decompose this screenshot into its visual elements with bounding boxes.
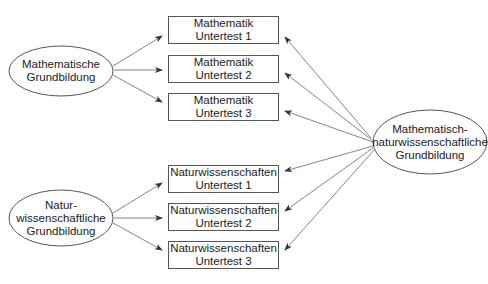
arrow-general-math-1 (285, 37, 371, 138)
factor-math-line-1: Mathematische (22, 58, 100, 71)
factor-science-label: Natur- wissenschaftliche Grundbildung (9, 198, 113, 238)
indicator-science-3: Naturwissenschaften Untertest 3 (168, 241, 279, 269)
indicator-subtest: Untertest 3 (169, 255, 278, 268)
indicator-title: Naturwissenschaften (169, 204, 278, 217)
indicator-science-1: Naturwissenschaften Untertest 1 (168, 165, 279, 193)
factor-science-line-3: Grundbildung (26, 225, 95, 238)
factor-science-line-2: wissenschaftliche (16, 212, 105, 225)
indicator-subtest: Untertest 1 (169, 179, 278, 192)
arrow-general-math-3 (285, 111, 373, 142)
arrow-general-science-1 (285, 146, 373, 171)
factor-general-line-3: Grundbildung (395, 149, 464, 162)
indicator-title: Naturwissenschaften (169, 242, 278, 255)
indicator-math-2: Mathematik Untertest 2 (168, 55, 279, 83)
arrow-science-3 (113, 223, 162, 250)
factor-general-line-2: naturwissenschaftliche (372, 136, 488, 149)
arrow-general-math-2 (285, 73, 372, 140)
indicator-title: Mathematik (169, 56, 278, 69)
arrow-math-3 (113, 75, 162, 102)
indicator-title: Mathematik (169, 17, 278, 30)
indicator-subtest: Untertest 1 (169, 30, 278, 43)
indicator-math-3: Mathematik Untertest 3 (168, 93, 279, 121)
factor-math-label: Mathematische Grundbildung (9, 58, 113, 84)
arrow-general-science-3 (285, 150, 374, 250)
indicator-title: Naturwissenschaften (169, 166, 278, 179)
indicator-subtest: Untertest 2 (169, 69, 278, 82)
arrow-general-science-2 (285, 148, 373, 211)
indicator-subtest: Untertest 3 (169, 107, 278, 120)
indicator-science-2: Naturwissenschaften Untertest 2 (168, 203, 279, 231)
factor-general-line-1: Mathematisch- (392, 123, 467, 136)
arrow-science-1 (113, 183, 162, 213)
indicator-title: Mathematik (169, 94, 278, 107)
factor-math-line-2: Grundbildung (26, 71, 95, 84)
arrow-math-1 (113, 36, 162, 66)
factor-general-label: Mathematisch- naturwissenschaftliche Gru… (372, 122, 488, 162)
indicator-math-1: Mathematik Untertest 1 (168, 16, 279, 44)
indicator-subtest: Untertest 2 (169, 217, 278, 230)
factor-science-line-1: Natur- (45, 199, 77, 212)
